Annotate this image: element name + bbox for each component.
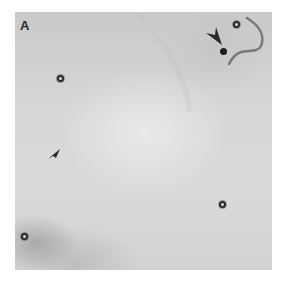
panel-label: A xyxy=(20,18,29,33)
large-arrowhead-icon xyxy=(206,27,224,47)
micrograph-panel: A xyxy=(15,12,272,270)
dense-dot xyxy=(220,48,227,55)
circle-marker-icon xyxy=(21,233,28,240)
circle-marker-icon xyxy=(219,201,226,208)
circle-marker-icon xyxy=(233,21,240,28)
membrane-curve xyxy=(15,12,272,270)
circle-marker-icon xyxy=(57,75,64,82)
small-arrowhead-icon xyxy=(48,149,61,160)
